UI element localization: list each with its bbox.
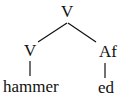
node-right: Af bbox=[99, 43, 117, 60]
leaf-right: ed bbox=[98, 79, 114, 96]
node-root: V bbox=[61, 3, 73, 20]
edge-root-right bbox=[68, 23, 96, 42]
leaf-left: hammer bbox=[3, 78, 59, 95]
node-left: V bbox=[24, 42, 36, 59]
edge-root-left bbox=[38, 23, 67, 42]
